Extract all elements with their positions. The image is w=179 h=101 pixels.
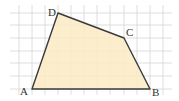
vertex-label-b: B: [152, 86, 159, 98]
vertex-label-d: D: [48, 6, 56, 18]
vertex-label-c: C: [126, 26, 133, 38]
quadrilateral-diagram: A B C D: [0, 0, 179, 101]
vertex-label-a: A: [20, 85, 28, 97]
